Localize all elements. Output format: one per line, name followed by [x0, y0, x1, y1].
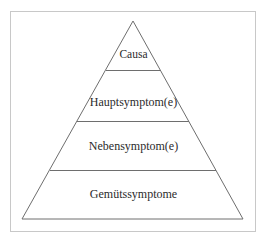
pyramid-graphic — [0, 0, 267, 244]
pyramid-tier-label-gemuetssymptome: Gemütssymptome — [0, 188, 267, 200]
pyramid-tier-label-hauptsymptom: Hauptsymptom(e) — [0, 96, 267, 108]
pyramid-tier-label-causa: Causa — [0, 49, 267, 61]
pyramid-tier-label-nebensymptom: Nebensymptom(e) — [0, 140, 267, 152]
pyramid-diagram: Causa Hauptsymptom(e) Nebensymptom(e) Ge… — [0, 0, 267, 244]
